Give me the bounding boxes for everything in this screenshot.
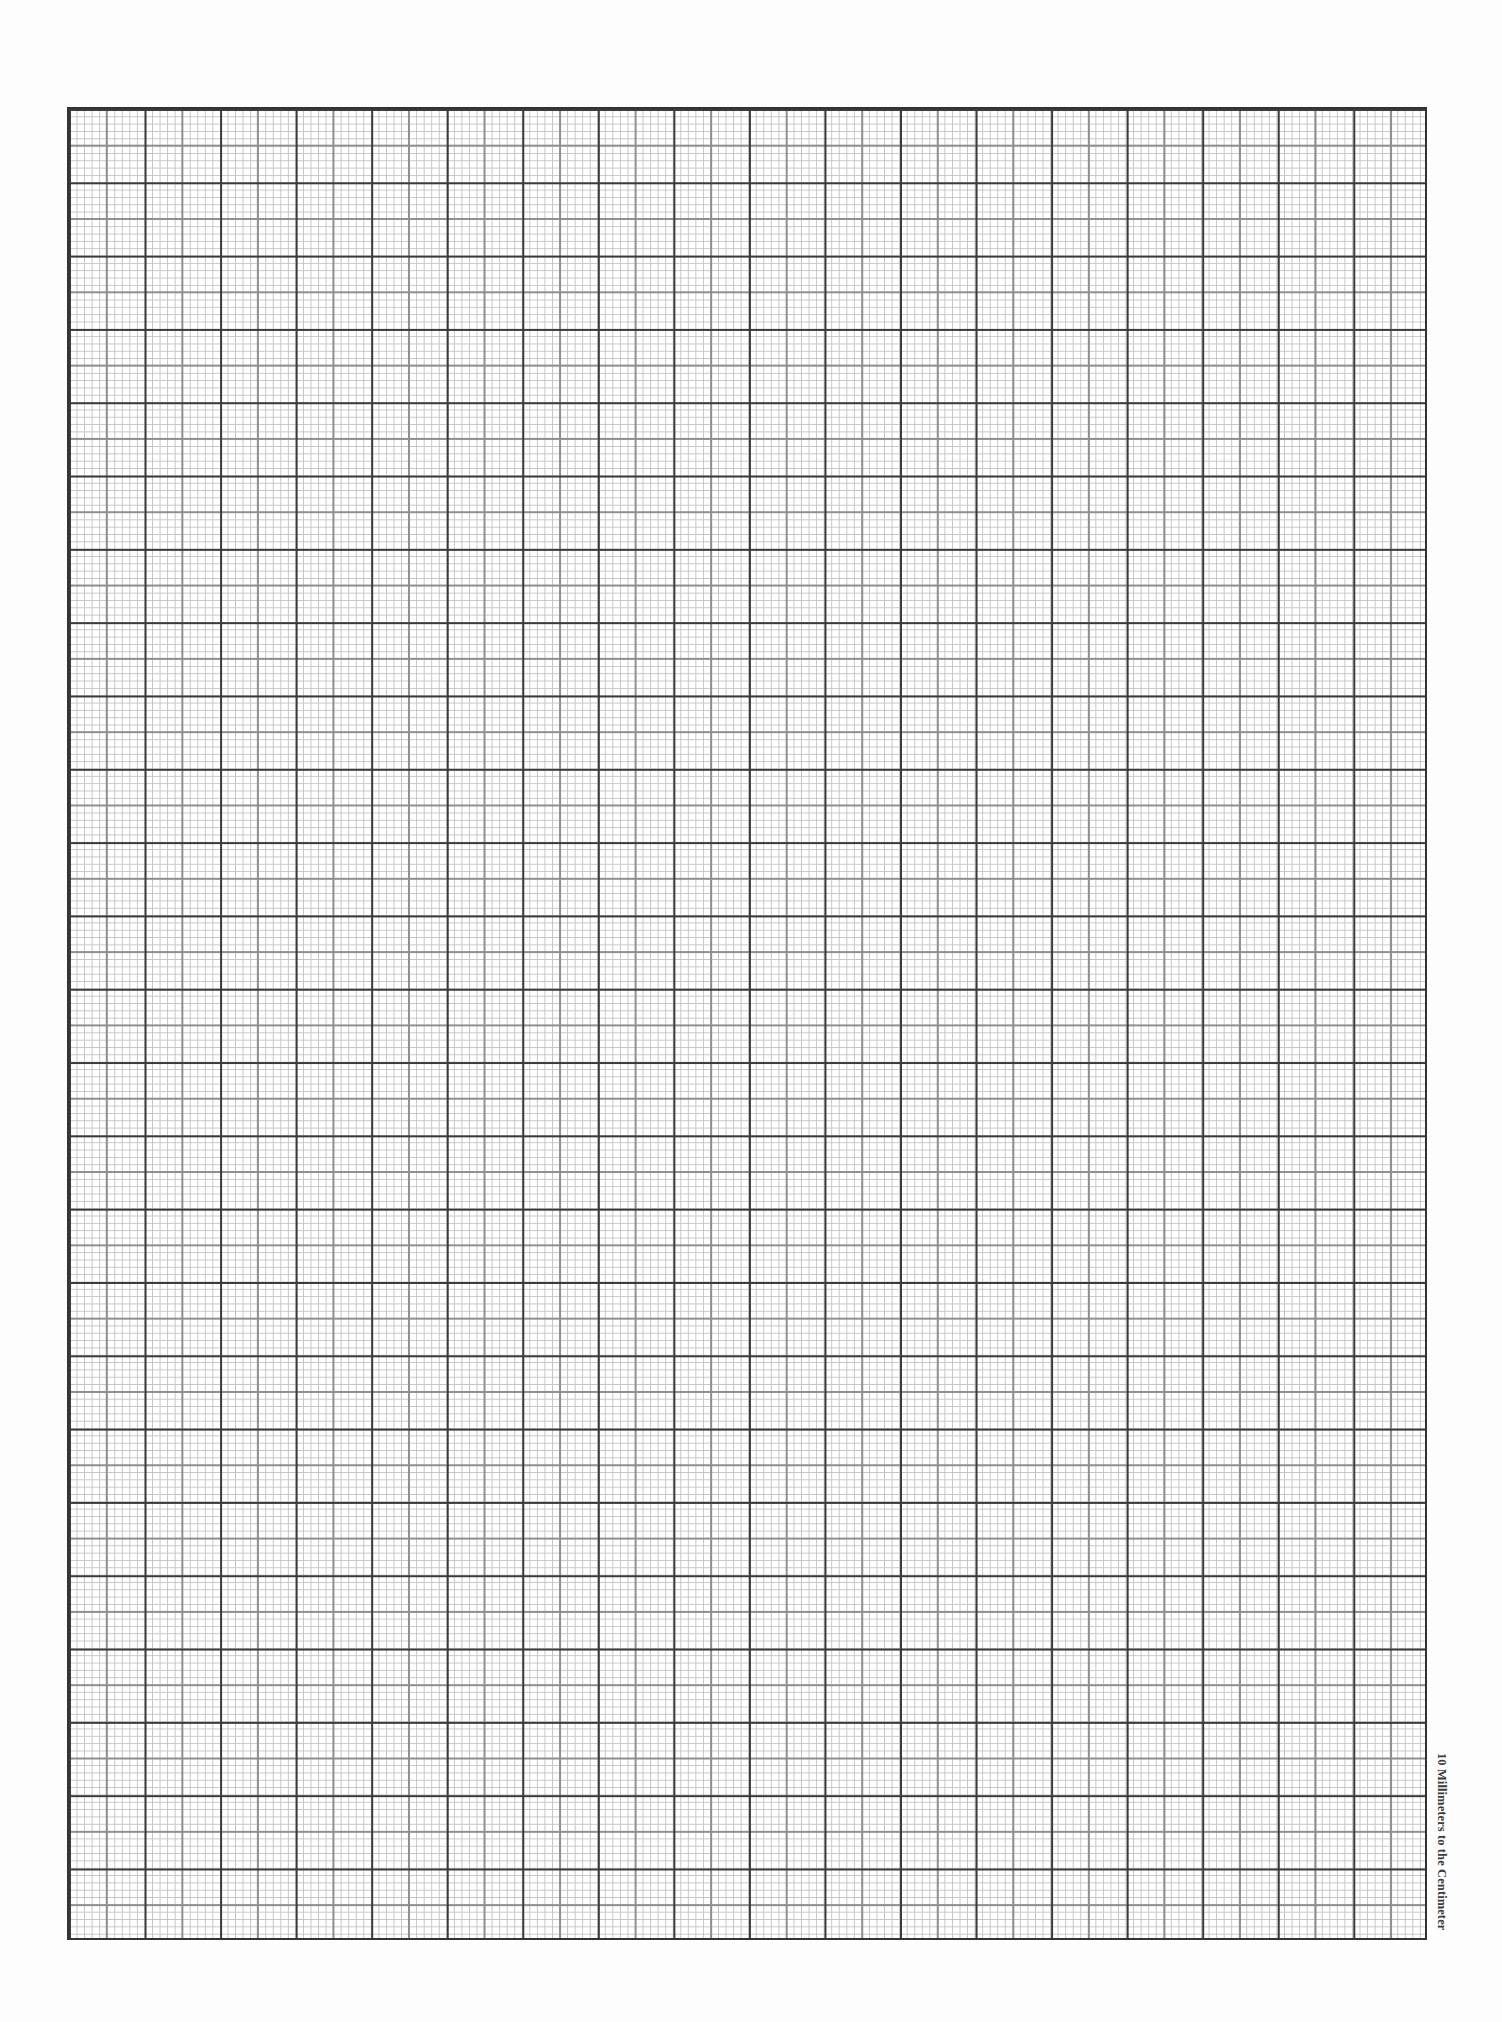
graph-paper-sheet: 10 Millimeters to the Centimeter — [0, 0, 1502, 2022]
scale-note-label: 10 Millimeters to the Centimeter — [1434, 1753, 1449, 1930]
millimeter-grid — [67, 107, 1427, 1940]
